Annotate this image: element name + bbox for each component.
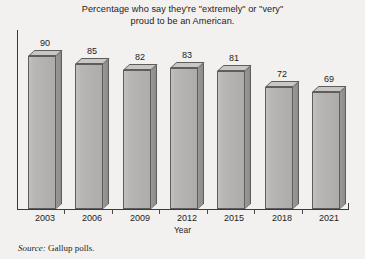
bar-value-label-2018: 72 <box>261 69 303 79</box>
x-tick-label-2006: 2006 <box>67 213 117 223</box>
x-tick-label-2003: 2003 <box>20 213 70 223</box>
source-label: Source: <box>18 243 46 253</box>
source-text: Gallup polls. <box>48 243 95 253</box>
bar-side-face <box>245 66 251 209</box>
x-axis-spine <box>17 209 349 210</box>
bar-front-face <box>217 71 245 209</box>
bar-2018[interactable] <box>265 87 293 209</box>
bar-value-label-2015: 81 <box>213 53 255 63</box>
bar-front-face <box>123 70 151 209</box>
x-axis-right-cap <box>348 203 349 210</box>
bar-2003[interactable] <box>28 56 56 209</box>
bar-2009[interactable] <box>123 70 151 209</box>
bar-value-label-2006: 85 <box>71 46 113 56</box>
x-axis-title: Year <box>0 225 365 235</box>
bar-value-label-2003: 90 <box>24 38 66 48</box>
x-tick-label-2009: 2009 <box>115 213 165 223</box>
x-tick-label-2015: 2015 <box>209 213 259 223</box>
bar-front-face <box>265 87 293 209</box>
bar-side-face <box>198 63 204 209</box>
x-tick-label-2018: 2018 <box>257 213 307 223</box>
bar-side-face <box>151 65 157 209</box>
x-axis-left-cap <box>17 203 18 210</box>
bar-front-face <box>75 64 103 209</box>
bar-front-face <box>28 56 56 209</box>
bar-side-face <box>293 82 299 209</box>
x-tick-label-2021: 2021 <box>304 213 354 223</box>
bar-value-label-2009: 82 <box>119 52 161 62</box>
bar-side-face <box>103 59 109 209</box>
bar-side-face <box>56 51 62 209</box>
bar-value-label-2021: 69 <box>308 74 350 84</box>
y-axis-spine <box>17 30 18 210</box>
chart-title: Percentage who say they're "extremely" o… <box>0 3 365 27</box>
bar-front-face <box>170 68 198 209</box>
bar-value-label-2012: 83 <box>166 50 208 60</box>
chart-figure: Percentage who say they're "extremely" o… <box>0 0 365 259</box>
source-note: Source: Gallup polls. <box>18 243 94 253</box>
bar-2012[interactable] <box>170 68 198 209</box>
x-tick-label-2012: 2012 <box>162 213 212 223</box>
bar-2015[interactable] <box>217 71 245 209</box>
bar-side-face <box>340 87 346 209</box>
bar-2021[interactable] <box>312 92 340 209</box>
bar-2006[interactable] <box>75 64 103 209</box>
bar-front-face <box>312 92 340 209</box>
